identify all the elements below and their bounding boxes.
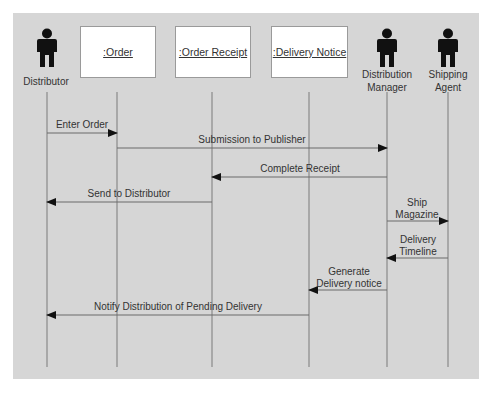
object-order: :Order xyxy=(80,26,156,78)
actor-label-distributor: Distributor xyxy=(23,75,69,88)
message-label-line1: Ship xyxy=(395,197,438,209)
actor-shipping-agent-icon xyxy=(437,28,459,68)
message-label-send-to-distributor: Send to Distributor xyxy=(88,188,171,200)
actor-name-line1: Distribution xyxy=(362,68,412,81)
actor-label-distribution-manager: Distribution Manager xyxy=(362,68,412,94)
actor-name-line1: Shipping xyxy=(429,68,468,81)
message-label-line2: Timeline xyxy=(399,246,436,258)
message-label-line1: Generate xyxy=(316,266,382,278)
actor-label-shipping-agent: Shipping Agent xyxy=(429,68,468,94)
message-label-complete-receipt: Complete Receipt xyxy=(260,163,339,175)
message-label-ship-magazine: Ship Magazine xyxy=(395,197,438,221)
message-label-submission-to-publisher: Submission to Publisher xyxy=(198,134,305,146)
actor-name-line2: Agent xyxy=(429,81,468,94)
object-label: :Order Receipt xyxy=(179,46,247,58)
message-label-enter-order: Enter Order xyxy=(56,119,108,131)
message-label-line2: Delivery notice xyxy=(316,278,382,290)
actor-name: Distributor xyxy=(23,76,69,87)
message-label-delivery-timeline: Delivery Timeline xyxy=(399,234,436,258)
message-label-line2: Magazine xyxy=(395,209,438,221)
message-label-line1: Delivery xyxy=(399,234,436,246)
actor-name-line2: Manager xyxy=(362,81,412,94)
message-label-notify-distribution: Notify Distribution of Pending Delivery xyxy=(94,301,262,313)
message-arrows xyxy=(47,133,448,315)
message-label-generate-delivery-notice: Generate Delivery notice xyxy=(316,266,382,290)
object-label: :Delivery Notice xyxy=(273,46,347,58)
actor-distributor-icon xyxy=(36,28,58,68)
object-delivery-notice: :Delivery Notice xyxy=(271,26,348,78)
object-label: :Order xyxy=(103,46,133,58)
object-order-receipt: :Order Receipt xyxy=(175,26,251,78)
actor-distribution-manager-icon xyxy=(376,28,398,68)
